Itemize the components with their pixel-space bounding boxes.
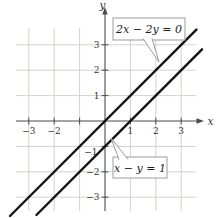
y-tick-label: 1 [94, 91, 100, 101]
x-tick-label: −3 [22, 126, 36, 136]
x-axis-letter: x [208, 115, 214, 127]
callout-layer [111, 18, 185, 178]
equation-label-line1: 2x − 2y = 0 [115, 23, 182, 36]
x-tick-label: 2 [153, 126, 159, 136]
graph-canvas: −3−2123321−1−2−3 x y 2x − 2y = 0 x − y =… [0, 0, 220, 218]
equation-box-pointer-1 [143, 39, 159, 63]
y-tick-label: 2 [94, 65, 100, 75]
y-axis-letter: y [99, 0, 107, 11]
y-tick-label: −3 [86, 192, 100, 202]
plot-line-1 [10, 30, 196, 216]
x-tick-label: 1 [128, 126, 134, 136]
x-tick-label: 3 [178, 126, 184, 136]
plot-line-2 [36, 49, 202, 215]
figure-stage: −3−2123321−1−2−3 x y 2x − 2y = 0 x − y =… [0, 0, 220, 218]
y-tick-label: 3 [94, 40, 100, 50]
equation-box-pointer-2 [111, 138, 128, 160]
plot-lines-layer [10, 30, 202, 216]
y-tick-label: −2 [86, 167, 99, 177]
x-tick-label: −2 [48, 126, 61, 136]
x-axis-arrowhead-icon [197, 118, 205, 123]
equation-label-line2: x − y = 1 [114, 162, 166, 175]
